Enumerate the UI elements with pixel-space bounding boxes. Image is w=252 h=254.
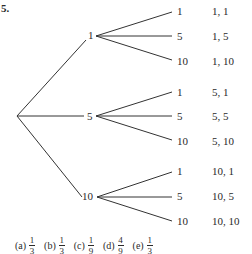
tree-node-level1: 1 — [88, 30, 94, 41]
outcome-pair: 5, 1 — [212, 87, 229, 98]
tree-leaf: 1 — [177, 87, 183, 98]
answer-label: (c) — [74, 240, 85, 251]
answer-label: (b) — [44, 240, 56, 251]
outcome-pair: 1, 5 — [212, 31, 229, 42]
outcome-pair: 5, 5 — [212, 111, 229, 122]
tree-leaf: 5 — [177, 191, 183, 202]
tree-leaf: 1 — [177, 6, 183, 17]
outcome-pair: 10, 10 — [212, 216, 240, 227]
tree-leaf: 10 — [177, 216, 188, 227]
outcome-pair: 1, 1 — [212, 6, 229, 17]
answer-a: (a) 13 — [15, 236, 35, 254]
outcome-pair: 10, 1 — [212, 166, 234, 177]
answer-e: (e) 13 — [133, 236, 153, 254]
tree-leaf: 1 — [177, 166, 183, 177]
fraction: 49 — [118, 236, 124, 254]
tree-leaf: 5 — [177, 111, 183, 122]
answer-list: (a) 13 (b) 13 (c) 19 (d) 49 (e) 13 — [15, 236, 153, 254]
answer-c: (c) 19 — [74, 236, 94, 254]
tree-leaf: 5 — [177, 31, 183, 42]
tree-node-level1: 5 — [87, 111, 93, 122]
fraction: 19 — [88, 236, 94, 254]
outcome-pair: 10, 5 — [212, 191, 234, 202]
answer-label: (a) — [15, 240, 26, 251]
fraction: 13 — [29, 236, 35, 254]
outcome-pair: 1, 10 — [212, 56, 234, 67]
answer-label: (d) — [103, 240, 115, 251]
fraction: 13 — [59, 236, 65, 254]
answer-d: (d) 49 — [103, 236, 124, 254]
answer-label: (e) — [133, 240, 144, 251]
fraction: 13 — [147, 236, 153, 254]
tree-leaf: 10 — [177, 56, 188, 67]
tree-node-level1: 10 — [82, 191, 93, 202]
outcome-pair: 5, 10 — [212, 136, 234, 147]
tree-leaf: 10 — [177, 136, 188, 147]
answer-b: (b) 13 — [44, 236, 65, 254]
